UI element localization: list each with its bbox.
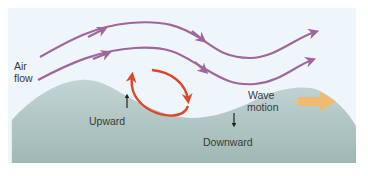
wave-motion-label-line1: Wave <box>248 89 274 101</box>
wave-motion-diagram <box>0 0 368 176</box>
upward-label: Upward <box>89 115 125 127</box>
air-flow-label-line2: flow <box>14 72 33 84</box>
wave-motion-label-line2: motion <box>247 101 279 113</box>
downward-label: Downward <box>203 136 253 148</box>
air-flow-label-line1: Air <box>14 60 27 72</box>
